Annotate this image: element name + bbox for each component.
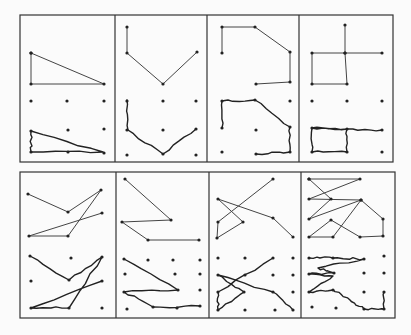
grid-dot: [29, 279, 32, 282]
grid-dot: [362, 257, 365, 260]
drawn-path: [217, 258, 293, 310]
reference-dot: [26, 192, 29, 195]
grid-dot: [242, 290, 245, 293]
grid-dot: [194, 127, 197, 130]
reference-dot: [310, 51, 313, 54]
grid-dot: [216, 256, 219, 259]
grid-dot: [100, 306, 103, 309]
grid-dot: [100, 255, 103, 258]
grid-dot: [291, 308, 294, 311]
grid-dot: [382, 271, 385, 274]
grid-dot: [102, 99, 105, 102]
grid-dot: [345, 127, 348, 130]
reference-dot: [216, 220, 219, 223]
drawn-path: [309, 257, 384, 310]
panel-top-1: [29, 51, 105, 154]
reference-dot: [241, 220, 244, 223]
grid-dot: [253, 98, 256, 101]
reference-dot: [102, 82, 105, 85]
reference-dot: [220, 25, 223, 28]
grid-dot: [382, 307, 385, 310]
grid-dot: [288, 150, 291, 153]
grid-dot: [334, 306, 337, 309]
drawn-path: [311, 127, 382, 152]
grid-dot: [65, 99, 68, 102]
grid-dot: [146, 258, 149, 261]
grid-dot: [29, 306, 32, 309]
reference-dot: [125, 51, 128, 54]
grid-dot: [310, 150, 313, 153]
grid-dot: [100, 279, 103, 282]
grid-dot: [125, 153, 128, 156]
reference-dot: [343, 51, 346, 54]
grid-dot: [331, 288, 334, 291]
reference-dot: [329, 218, 332, 221]
grid-dot: [161, 128, 164, 131]
grid-dot: [67, 278, 70, 281]
grid-dot: [382, 254, 385, 257]
grid-dot: [66, 128, 69, 131]
reference-dot: [331, 235, 334, 238]
reference-dot: [27, 234, 30, 237]
reference-dot: [291, 235, 294, 238]
panel-bottom-1: [26, 188, 103, 309]
reference-dot: [345, 82, 348, 85]
drawn-path: [30, 131, 103, 153]
reference-path: [127, 27, 197, 84]
reference-dot: [288, 80, 291, 83]
drawn-path: [222, 100, 291, 155]
reference-dot: [381, 217, 384, 220]
grid-dot: [29, 99, 32, 102]
drawn-path: [30, 256, 102, 308]
grid-dot: [380, 99, 383, 102]
reference-dot: [271, 177, 274, 180]
panel-bottom-3: [215, 177, 294, 311]
grid-dot: [380, 128, 383, 131]
reference-dot: [253, 25, 256, 28]
grid-dot: [362, 271, 365, 274]
grid-dot: [273, 308, 276, 311]
grid-dot: [216, 290, 219, 293]
reference-dot: [307, 177, 310, 180]
grid-dot: [194, 99, 197, 102]
reference-dot: [216, 197, 219, 200]
reference-dot: [358, 177, 361, 180]
reference-path: [222, 27, 290, 84]
grid-dot: [254, 128, 257, 131]
grid-dot: [69, 256, 72, 259]
reference-dot: [359, 198, 362, 201]
grid-dot: [198, 288, 201, 291]
reference-dot: [29, 82, 32, 85]
reference-dot: [310, 82, 313, 85]
grid-dot: [291, 256, 294, 259]
reference-dot: [381, 234, 384, 237]
grid-dot: [194, 153, 197, 156]
grid-dot: [307, 256, 310, 259]
drawn-path: [127, 100, 196, 154]
reference-path: [217, 179, 293, 238]
grid-dot: [288, 125, 291, 128]
panel-bottom-4: [307, 177, 385, 310]
grid-dot: [310, 305, 313, 308]
grid-dot: [380, 150, 383, 153]
grid-dot: [173, 272, 176, 275]
reference-dot: [329, 197, 332, 200]
grid-dot: [102, 151, 105, 154]
grid-dot: [345, 99, 348, 102]
reference-path: [28, 190, 102, 236]
panel-bottom-2: [120, 177, 201, 310]
grid-dot: [332, 271, 335, 274]
grid-dot: [362, 290, 365, 293]
grid-dot: [345, 150, 348, 153]
grid-dot: [171, 258, 174, 261]
reference-dot: [66, 210, 69, 213]
reference-dot: [307, 197, 310, 200]
reference-path: [312, 25, 382, 84]
reference-dot: [100, 211, 103, 214]
grid-dot: [271, 290, 274, 293]
grid-dot: [28, 254, 31, 257]
reference-dot: [254, 82, 257, 85]
grid-dot: [29, 129, 32, 132]
drawn-path: [124, 259, 200, 308]
grid-dot: [310, 126, 313, 129]
